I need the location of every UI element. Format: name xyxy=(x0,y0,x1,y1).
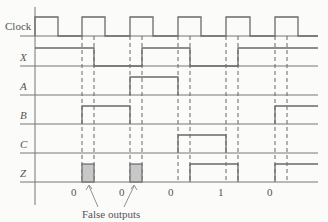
output-value: 1 xyxy=(218,186,224,198)
annotation-arrowhead xyxy=(131,185,137,190)
signal-label-c: C xyxy=(20,138,28,150)
z-waveform-2 xyxy=(275,164,318,182)
false-outputs-annotation: False outputs xyxy=(82,208,140,220)
annotation-arrow xyxy=(89,186,98,207)
output-value: 0 xyxy=(119,186,125,198)
dashed-guides xyxy=(82,36,287,182)
signal-label-x: X xyxy=(19,51,28,63)
c-waveform xyxy=(178,135,226,153)
b-waveform xyxy=(82,106,130,124)
signal-label-a: A xyxy=(19,80,27,92)
false-output-pulse xyxy=(130,164,142,182)
output-value: 0 xyxy=(168,186,174,198)
signal-label-clock: Clock xyxy=(5,20,32,32)
signal-label-z: Z xyxy=(20,167,27,179)
signal-label-b: B xyxy=(20,109,27,121)
timing-diagram: Clock X A B C Z 0 0 0 1 0 False outputs xyxy=(0,0,328,222)
z-waveform xyxy=(190,164,238,182)
annotation-arrowhead xyxy=(86,185,92,190)
annotation-arrow xyxy=(124,186,134,207)
clock-waveform xyxy=(35,17,318,36)
baselines xyxy=(20,36,318,182)
output-value: 0 xyxy=(71,186,77,198)
b-waveform-2 xyxy=(275,106,318,124)
false-output-pulse xyxy=(82,164,94,182)
x-waveform xyxy=(35,48,318,66)
a-waveform xyxy=(130,77,178,95)
output-value: 0 xyxy=(267,186,273,198)
